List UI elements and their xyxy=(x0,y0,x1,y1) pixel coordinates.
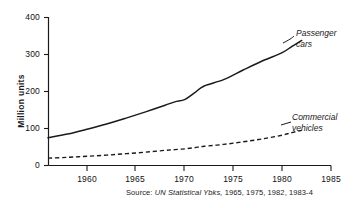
x-tick-label-1965: 1965 xyxy=(115,174,155,184)
series-label-commercial-vehicles: Commercial vehicles xyxy=(292,112,337,133)
x-tick-label-1975: 1975 xyxy=(213,174,253,184)
series-label-passenger-cars: Passenger cars xyxy=(296,28,337,49)
source-years: 1965, 1975, 1982, 1983-4 xyxy=(225,188,313,197)
y-tick-label-400: 400 xyxy=(8,12,40,22)
y-tick-label-200: 200 xyxy=(8,86,40,96)
series-line-passenger-cars xyxy=(48,40,302,137)
series-label-commercial-line1: Commercial xyxy=(292,112,337,122)
y-axis-ticks xyxy=(44,18,49,166)
series-label-commercial-line2: vehicles xyxy=(292,123,323,133)
y-tick-label-100: 100 xyxy=(8,123,40,133)
x-axis-ticks xyxy=(87,166,331,172)
y-tick-label-0: 0 xyxy=(8,160,40,170)
line-chart: Million units 400 300 200 100 0 1960 196… xyxy=(0,0,354,208)
x-tick-label-1985: 1985 xyxy=(311,174,351,184)
source-note: Source: UN Statistical Ybks, 1965, 1975,… xyxy=(126,188,313,197)
series-label-passenger-line1: Passenger xyxy=(296,28,337,38)
y-tick-label-300: 300 xyxy=(8,49,40,59)
x-tick-label-1960: 1960 xyxy=(67,174,107,184)
source-prefix: Source: xyxy=(126,188,153,197)
source-work: UN Statistical Ybks, xyxy=(155,188,223,197)
series-label-passenger-line2: cars xyxy=(296,39,312,49)
x-tick-label-1980: 1980 xyxy=(262,174,302,184)
series-line-commercial-vehicles xyxy=(48,130,302,158)
leader-line-passenger-cars xyxy=(283,36,294,43)
leader-line-commercial-vehicles xyxy=(281,122,291,125)
x-tick-label-1970: 1970 xyxy=(164,174,204,184)
